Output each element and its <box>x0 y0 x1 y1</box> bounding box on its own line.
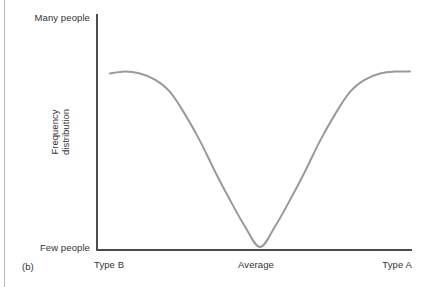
figure-panel: Many people Few people Frequency distrib… <box>0 0 435 287</box>
distribution-curve <box>110 71 410 247</box>
distribution-curve-layer <box>0 0 435 287</box>
